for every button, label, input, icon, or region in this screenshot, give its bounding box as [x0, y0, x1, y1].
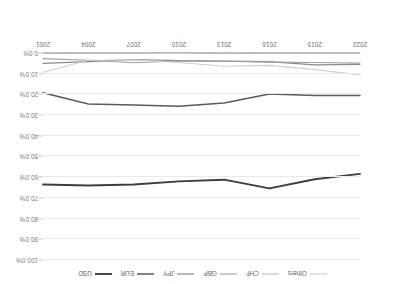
gridline: [43, 156, 360, 157]
legend-item-chf[interactable]: CHF: [246, 271, 279, 278]
gridline: [43, 73, 360, 74]
gridline: [43, 218, 360, 219]
gridline: [43, 176, 360, 177]
x-tick-label: 2016: [262, 41, 276, 48]
legend-swatch-jpy: [178, 271, 195, 277]
legend-label: EUR: [121, 271, 134, 278]
y-tick-mark: [38, 115, 43, 116]
y-tick-mark: [38, 197, 43, 198]
series-lines: [43, 53, 360, 260]
x-tick-label: 2022: [353, 41, 367, 48]
y-tick-mark: [38, 177, 43, 178]
legend-swatch-chf: [262, 271, 279, 277]
legend-swatch-gbp: [220, 271, 237, 277]
y-tick-mark: [38, 94, 43, 95]
legend-label: USD: [78, 271, 91, 278]
legend-swatch-usd: [95, 271, 112, 277]
x-tick-label: 2010: [172, 41, 186, 48]
y-tick-label: 80.0%: [20, 215, 38, 222]
legend-label: Others: [288, 271, 307, 278]
y-tick-label: 70.0%: [20, 194, 38, 201]
legend-item-jpy[interactable]: JPY: [163, 271, 195, 278]
gridline: [43, 238, 360, 239]
chart-legend: OthersCHFGBPJPYEURUSD: [0, 264, 405, 284]
gridline: [43, 197, 360, 198]
y-tick-label: 30.0%: [20, 112, 38, 119]
plot-area: 0.0%10.0%20.0%30.0%40.0%50.0%60.0%70.0%8…: [43, 53, 360, 260]
y-tick-label: 20.0%: [20, 91, 38, 98]
gridline: [43, 114, 360, 115]
legend-swatch-eur: [137, 271, 154, 277]
y-tick-mark: [38, 218, 43, 219]
y-tick-mark: [38, 260, 43, 261]
x-tick-label: 2007: [126, 41, 140, 48]
y-tick-mark: [38, 156, 43, 157]
y-tick-label: 40.0%: [20, 132, 38, 139]
legend-item-eur[interactable]: EUR: [121, 271, 154, 278]
gridline: [43, 259, 360, 260]
gridline: [43, 93, 360, 94]
legend-item-usd[interactable]: USD: [78, 271, 111, 278]
chart-figure: OthersCHFGBPJPYEURUSD 0.0%10.0%20.0%30.0…: [0, 0, 405, 284]
legend-item-others[interactable]: Others: [288, 271, 327, 278]
y-tick-mark: [38, 239, 43, 240]
y-tick-label: 90.0%: [20, 236, 38, 243]
x-tick-label: 2013: [217, 41, 231, 48]
y-tick-mark: [38, 135, 43, 136]
y-tick-label: 100.0%: [16, 257, 38, 264]
y-tick-label: 60.0%: [20, 174, 38, 181]
x-tick-label: 2019: [308, 41, 322, 48]
legend-label: GBP: [204, 271, 217, 278]
legend-item-gbp[interactable]: GBP: [204, 271, 237, 278]
y-tick-label: 0.0%: [23, 50, 38, 57]
x-tick-label: 2001: [36, 41, 50, 48]
x-tick-label: 2004: [81, 41, 95, 48]
legend-label: JPY: [163, 271, 175, 278]
y-tick-label: 50.0%: [20, 153, 38, 160]
series-line-eur: [43, 93, 360, 106]
legend-label: CHF: [246, 271, 259, 278]
legend-swatch-others: [310, 271, 327, 277]
series-line-gbp: [43, 59, 360, 64]
y-tick-label: 10.0%: [20, 70, 38, 77]
y-tick-mark: [38, 73, 43, 74]
y-tick-mark: [38, 53, 43, 54]
axis-baseline: [43, 52, 360, 53]
gridline: [43, 135, 360, 136]
